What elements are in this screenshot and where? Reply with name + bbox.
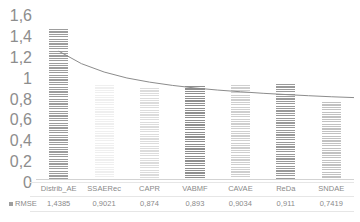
category-label-ReDa: ReDa (263, 182, 308, 196)
legend-label: RMSE (15, 199, 37, 208)
table-divider-bottom (30, 211, 354, 212)
value-label-ReDa: 0,911 (263, 197, 308, 211)
y-tick-0-4: 0,4 (2, 132, 32, 150)
y-tick-1: 1 (2, 70, 32, 88)
rmse-bar-chart: 00,20,40,60,811,21,41,6 Distrib_AESSAERe… (0, 0, 360, 222)
y-tick-0-8: 0,8 (2, 91, 32, 109)
table-row-categories: Distrib_AESSAERecCAPRVABMFCAVAEReDaSNDAE (0, 182, 360, 196)
value-label-Distrib_AE: 1,4385 (36, 197, 81, 211)
category-label-CAPR: CAPR (127, 182, 172, 196)
trend-line (36, 12, 354, 179)
y-tick-1-6: 1,6 (2, 7, 32, 25)
category-label-SSAERec: SSAERec (81, 182, 126, 196)
table-row-values: 1,43850,90210,8740,8930,90340,9110,7419 (0, 197, 360, 211)
category-label-SNDAE: SNDAE (309, 182, 354, 196)
data-table: Distrib_AESSAERecCAPRVABMFCAVAEReDaSNDAE… (0, 182, 360, 222)
value-label-SNDAE: 0,7419 (309, 197, 354, 211)
y-tick-1-4: 1,4 (2, 28, 32, 46)
value-label-SSAERec: 0,9021 (81, 197, 126, 211)
y-tick-1-2: 1,2 (2, 49, 32, 67)
legend-swatch-icon (9, 202, 13, 206)
category-label-VABMF: VABMF (172, 182, 217, 196)
y-tick-0-6: 0,6 (2, 111, 32, 129)
plot-area: 00,20,40,60,811,21,41,6 (36, 12, 354, 179)
value-label-CAPR: 0,874 (127, 197, 172, 211)
y-tick-0-2: 0,2 (2, 153, 32, 171)
legend-rmse: RMSE (9, 197, 37, 211)
x-axis-line (36, 179, 354, 180)
category-label-Distrib_AE: Distrib_AE (36, 182, 81, 196)
value-label-VABMF: 0,893 (172, 197, 217, 211)
value-label-CAVAE: 0,9034 (218, 197, 263, 211)
category-label-CAVAE: CAVAE (218, 182, 263, 196)
